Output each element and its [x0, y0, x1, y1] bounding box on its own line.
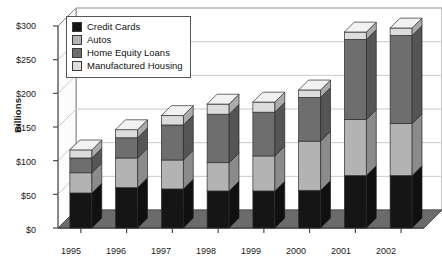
legend-label-manufactured-housing: Manufactured Housing	[87, 61, 183, 71]
legend-swatch-manufactured-housing	[72, 61, 82, 71]
legend-item-home-equity-loans: Home Equity Loans	[72, 47, 183, 59]
legend-swatch-credit-cards	[72, 22, 82, 32]
legend-swatch-home-equity-loans	[72, 48, 82, 58]
legend-swatch-autos	[72, 35, 82, 45]
legend-item-credit-cards: Credit Cards	[72, 21, 183, 33]
legend-label-home-equity-loans: Home Equity Loans	[87, 48, 170, 58]
legend-label-autos: Autos	[87, 35, 111, 45]
legend: Credit Cards Autos Home Equity Loans Man…	[66, 16, 191, 78]
legend-item-manufactured-housing: Manufactured Housing	[72, 60, 183, 72]
stacked-bar-chart: Billions $300 $250 $200 $150 $100 $50 $0…	[0, 0, 442, 264]
legend-label-credit-cards: Credit Cards	[87, 22, 140, 32]
legend-item-autos: Autos	[72, 34, 183, 46]
